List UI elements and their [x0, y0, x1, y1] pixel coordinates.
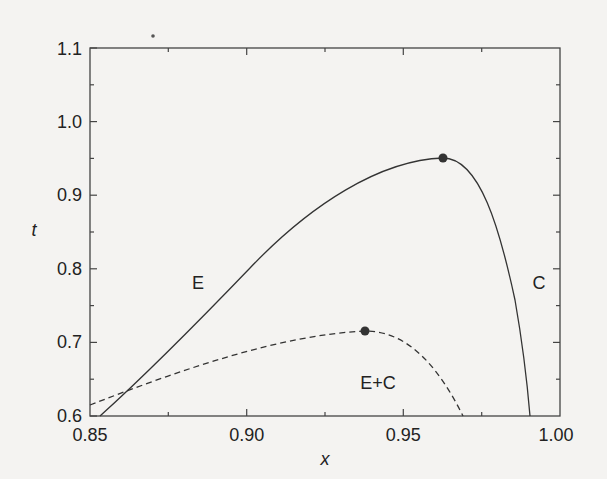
scan-speck — [151, 34, 155, 38]
plot-frame — [90, 48, 560, 416]
region-label-c: C — [533, 273, 546, 293]
x-tick-label: 0.85 — [72, 425, 107, 445]
x-tick-label: 1.00 — [538, 425, 573, 445]
solid-peak-marker — [439, 154, 448, 163]
x-axis-label: x — [320, 449, 331, 469]
y-tick-label: 1.1 — [57, 39, 82, 59]
phase-diagram-chart: 0.6 0.7 0.8 0.9 1.0 1.1 0.85 0.90 0.95 1… — [0, 0, 607, 479]
y-tick-label: 1.0 — [57, 112, 82, 132]
y-tick-label: 0.6 — [57, 406, 82, 426]
solid-boundary-curve — [100, 158, 530, 416]
x-tick-label: 0.90 — [229, 425, 264, 445]
y-tick-label: 0.8 — [57, 259, 82, 279]
region-label-e: E — [192, 273, 204, 293]
y-tick-label: 0.9 — [57, 185, 82, 205]
y-ticks — [90, 48, 560, 416]
region-label-ec: E+C — [360, 373, 396, 393]
y-axis-label: t — [31, 220, 37, 240]
y-tick-label: 0.7 — [57, 332, 82, 352]
dashed-peak-marker — [361, 327, 370, 336]
x-tick-label: 0.95 — [386, 425, 421, 445]
